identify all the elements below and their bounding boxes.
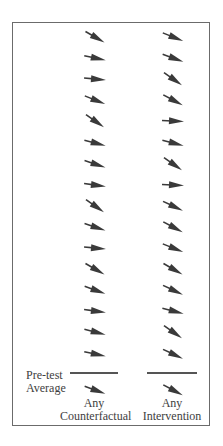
pretest-line-intervention (147, 372, 197, 374)
arrow-icon (160, 156, 186, 172)
arrow-icon (160, 219, 186, 235)
pretest-label: Pre-test Average (26, 369, 66, 395)
pretest-label-line2: Average (26, 382, 66, 395)
arrow-icon (160, 282, 186, 298)
arrow-icon (160, 198, 186, 214)
counterfactual-label-line2: Counterfactual (60, 410, 128, 423)
arrow-icon (160, 261, 186, 277)
arrow-icon (82, 50, 108, 66)
arrow-icon (82, 135, 108, 151)
pretest-line-counterfactual (70, 372, 118, 374)
arrow-icon (82, 282, 108, 298)
arrow-icon (160, 113, 186, 129)
arrow-icon (160, 71, 186, 87)
arrow-icon (82, 198, 108, 214)
counterfactual-column-label: Any Counterfactual (60, 397, 128, 423)
arrow-icon (82, 71, 108, 87)
arrow-icon (82, 29, 108, 45)
arrow-icon (82, 156, 108, 172)
arrow-icon (160, 177, 186, 193)
arrow-icon (160, 324, 186, 340)
arrow-icon (160, 303, 186, 319)
arrow-icon (160, 29, 186, 45)
arrow-icon (160, 92, 186, 108)
arrow-icon (82, 113, 108, 129)
arrow-icon (82, 261, 108, 277)
arrow-icon (160, 50, 186, 66)
arrow-icon (82, 346, 108, 362)
arrow-icon (160, 240, 186, 256)
arrow-icon (82, 219, 108, 235)
arrow-icon (82, 303, 108, 319)
intervention-label-line2: Intervention (138, 410, 206, 423)
arrow-icon (82, 177, 108, 193)
arrow-icon (82, 324, 108, 340)
arrow-icon (82, 240, 108, 256)
intervention-column-label: Any Intervention (138, 397, 206, 423)
arrow-icon (82, 92, 108, 108)
arrow-icon (160, 135, 186, 151)
arrow-icon (160, 346, 186, 362)
